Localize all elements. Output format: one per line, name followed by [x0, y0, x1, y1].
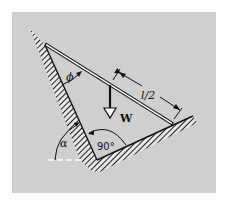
- half-length-label: l/2: [141, 89, 155, 102]
- rod-in-v-groove-diagram: W l/2 ϕ α 90°: [0, 0, 228, 203]
- weight-label: W: [119, 112, 133, 125]
- background-panel: [12, 12, 216, 193]
- alpha-label: α: [60, 137, 68, 150]
- phi-label: ϕ: [66, 71, 74, 84]
- right-angle-label: 90°: [97, 141, 115, 152]
